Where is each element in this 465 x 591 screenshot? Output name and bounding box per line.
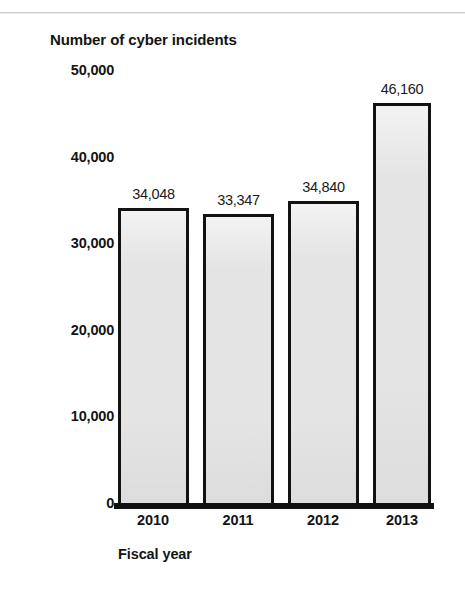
chart-page: Number of cyber incidents 50,000 40,000 … <box>0 0 465 591</box>
bar-2013[interactable] <box>373 103 431 506</box>
bar-2012-fill <box>291 204 356 503</box>
bar-value-label-2012: 34,840 <box>302 179 345 195</box>
x-axis-title: Fiscal year <box>118 546 192 562</box>
bar-value-label-2013: 46,160 <box>381 81 424 97</box>
bar-2012[interactable] <box>288 201 359 506</box>
y-axis-tick-40000: 40,000 <box>4 149 114 165</box>
y-axis-tick-50000: 50,000 <box>4 62 114 78</box>
x-axis-tick-2012: 2012 <box>307 512 339 528</box>
y-axis-tick-10000: 10,000 <box>4 408 114 424</box>
y-axis-tick-30000: 30,000 <box>4 235 114 251</box>
x-axis-tick-2013: 2013 <box>386 512 418 528</box>
x-axis-tick-2010: 2010 <box>137 512 169 528</box>
x-axis-baseline <box>114 503 434 509</box>
bar-chart: Number of cyber incidents 50,000 40,000 … <box>0 0 465 591</box>
bar-2013-fill <box>376 106 428 503</box>
bar-2010[interactable] <box>118 208 189 506</box>
y-axis: 50,000 40,000 30,000 20,000 10,000 0 <box>0 0 114 591</box>
bar-2011-fill <box>206 217 271 503</box>
y-axis-tick-0: 0 <box>4 495 114 511</box>
y-axis-tick-20000: 20,000 <box>4 322 114 338</box>
x-axis-tick-2011: 2011 <box>222 512 253 528</box>
bar-value-label-2010: 34,048 <box>132 186 175 202</box>
bar-2011[interactable] <box>203 214 274 506</box>
bar-2010-fill <box>121 211 186 503</box>
plot-area: 34,048 33,347 34,840 46,160 <box>112 60 440 512</box>
bar-value-label-2011: 33,347 <box>217 192 260 208</box>
